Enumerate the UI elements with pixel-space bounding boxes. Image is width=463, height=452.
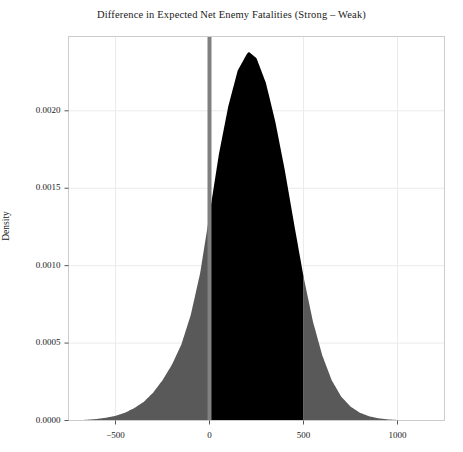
y-tick-label: 0.0020 [36,105,61,115]
density-plot-figure [0,0,463,452]
x-tick-label: 500 [274,430,334,440]
y-tick-label: 0.0000 [36,415,61,425]
y-tick-label: 0.0005 [36,337,61,347]
y-tick-label: 0.0010 [36,260,61,270]
y-tick-label: 0.0015 [36,182,61,192]
y-axis-label: Density [1,211,11,241]
x-tick-label: 0 [180,430,240,440]
x-tick-label: 1000 [368,430,428,440]
chart-title: Difference in Expected Net Enemy Fatalit… [0,9,463,20]
x-tick-label: −500 [86,430,146,440]
